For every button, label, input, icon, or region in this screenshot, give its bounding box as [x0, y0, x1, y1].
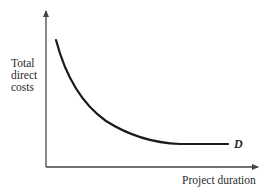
direct-cost-curve [56, 40, 228, 144]
y-axis-label-line-2: direct [11, 69, 38, 81]
x-axis-label: Project duration [182, 174, 256, 187]
y-axis-label-line-1: Total [11, 57, 34, 69]
cost-duration-diagram: D Total direct costs Project duration [0, 0, 268, 194]
curve-end-label: D [233, 137, 243, 151]
y-axis-label-line-3: costs [11, 81, 35, 93]
